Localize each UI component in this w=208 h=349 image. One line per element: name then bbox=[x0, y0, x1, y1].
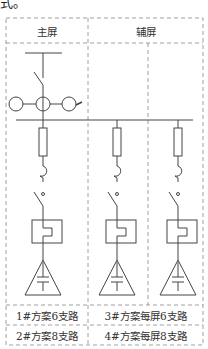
branch-1 bbox=[25, 120, 62, 295]
footer-scheme-4: 4#方案每屏8支路 bbox=[88, 328, 203, 343]
header-main-screen: 主屏 bbox=[6, 24, 88, 39]
capacitor-panel-diagram bbox=[0, 0, 208, 349]
hook-icon bbox=[40, 166, 47, 182]
footer-scheme-1: 1#方案6支路 bbox=[6, 308, 88, 323]
isolating-switch-icon bbox=[34, 72, 43, 85]
ct-circle-icon bbox=[9, 97, 23, 111]
thermal-relay-icon bbox=[106, 220, 136, 243]
hook-icon bbox=[114, 166, 121, 182]
branch-2 bbox=[99, 120, 136, 295]
fuse-icon bbox=[39, 128, 47, 156]
branch-3 bbox=[160, 120, 197, 295]
thermal-relay-icon bbox=[167, 220, 197, 243]
fuse-icon bbox=[174, 128, 182, 156]
arrow-icon bbox=[76, 102, 82, 105]
incoming-section bbox=[9, 53, 82, 120]
hook-icon bbox=[175, 166, 182, 182]
footer-scheme-3: 3#方案每屏6支路 bbox=[88, 308, 203, 323]
thermal-relay-icon bbox=[32, 220, 62, 243]
dashed-frame bbox=[6, 18, 203, 345]
footer-scheme-2: 2#方案8支路 bbox=[6, 328, 88, 343]
ct-circle-icon bbox=[62, 97, 76, 111]
fuse-icon bbox=[113, 128, 121, 156]
header-aux-screen: 辅屏 bbox=[88, 24, 203, 39]
